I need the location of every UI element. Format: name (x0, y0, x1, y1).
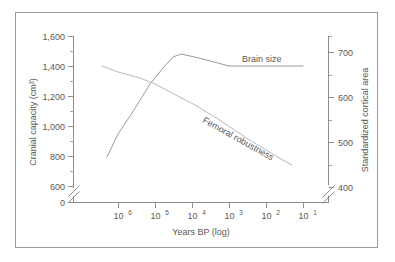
x-tick-exponent: 3 (239, 209, 243, 216)
right-tick-label-600: 600 (338, 93, 353, 103)
x-tick-exponent: 1 (313, 209, 317, 216)
x-axis-title: Years BP (log) (172, 227, 230, 237)
x-tick-base: 10 (298, 211, 308, 221)
x-tick-label-1e2: 10 2 (261, 209, 280, 222)
series-label-brain-size: Brain size (242, 54, 282, 64)
series-label-femoral-robustness: Femoral robustness (201, 115, 276, 163)
right-axis-title: Standardized cortical area (360, 68, 370, 173)
x-tick-base: 10 (150, 211, 160, 221)
x-axis-group: 10 6 10 5 10 4 10 3 10 2 10 1 (74, 203, 329, 238)
x-tick-base: 10 (261, 211, 271, 221)
left-tick-label-800: 800 (50, 152, 65, 162)
figure-root: 1,600 1,400 1,200 1,000 800 600 0 Crania… (0, 0, 395, 262)
x-tick-base: 10 (224, 211, 234, 221)
x-tick-exponent: 6 (128, 209, 132, 216)
right-tick-label-400: 400 (338, 183, 353, 193)
left-tick-label-1600: 1,600 (42, 32, 65, 42)
left-tick-label-1000: 1,000 (42, 122, 65, 132)
x-tick-label-1e1: 10 1 (298, 209, 317, 222)
x-tick-base: 10 (113, 211, 123, 221)
x-tick-exponent: 2 (276, 209, 280, 216)
x-tick-label-1e5: 10 5 (150, 209, 169, 222)
series-line-brain-size (107, 54, 303, 157)
x-tick-base: 10 (187, 211, 197, 221)
right-tick-label-700: 700 (338, 48, 353, 58)
left-tick-label-1400: 1,400 (42, 62, 65, 72)
left-axis-title: Cranial capacity (cm³) (28, 78, 38, 166)
left-tick-label-600: 600 (50, 182, 65, 192)
x-tick-label-1e6: 10 6 (113, 209, 132, 222)
left-tick-label-0: 0 (60, 198, 65, 208)
right-axis-group: 700 600 500 400 Standardized cortical ar… (323, 36, 371, 204)
right-tick-label-500: 500 (338, 138, 353, 148)
chart-canvas: 1,600 1,400 1,200 1,000 800 600 0 Crania… (0, 0, 395, 262)
left-tick-label-1200: 1,200 (42, 92, 65, 102)
x-tick-exponent: 4 (202, 209, 206, 216)
series-group (102, 54, 303, 165)
x-tick-label-1e4: 10 4 (187, 209, 206, 222)
x-tick-label-1e3: 10 3 (224, 209, 243, 222)
x-tick-exponent: 5 (165, 209, 169, 216)
left-axis-group: 1,600 1,400 1,200 1,000 800 600 0 Crania… (28, 32, 80, 208)
